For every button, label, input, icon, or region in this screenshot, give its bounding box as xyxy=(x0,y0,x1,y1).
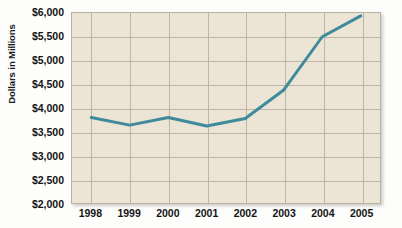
y-axis-tick-label: $5,500 xyxy=(10,31,64,41)
line-chart-figure: Dollars in Millions $2,000$2,500$3,000$3… xyxy=(0,0,402,228)
x-axis-tick-label: 2005 xyxy=(339,206,385,220)
y-axis-tick-labels: $2,000$2,500$3,000$3,500$4,000$4,500$5,0… xyxy=(10,12,67,204)
x-axis-tick-labels: 19981999200020012002200320042005 xyxy=(71,206,381,222)
data-series-line xyxy=(91,16,361,126)
y-axis-tick-label: $2,000 xyxy=(10,199,64,209)
y-axis-tick-label: $4,000 xyxy=(10,103,64,113)
y-axis-tick-label: $3,000 xyxy=(10,151,64,161)
plot-area xyxy=(71,12,381,204)
y-axis-tick-label: $2,500 xyxy=(10,175,64,185)
y-axis-tick-label: $5,000 xyxy=(10,55,64,65)
data-line-svg xyxy=(72,13,380,203)
y-axis-tick-label: $4,500 xyxy=(10,79,64,89)
y-axis-tick-label: $6,000 xyxy=(10,7,64,17)
y-axis-tick-label: $3,500 xyxy=(10,127,64,137)
